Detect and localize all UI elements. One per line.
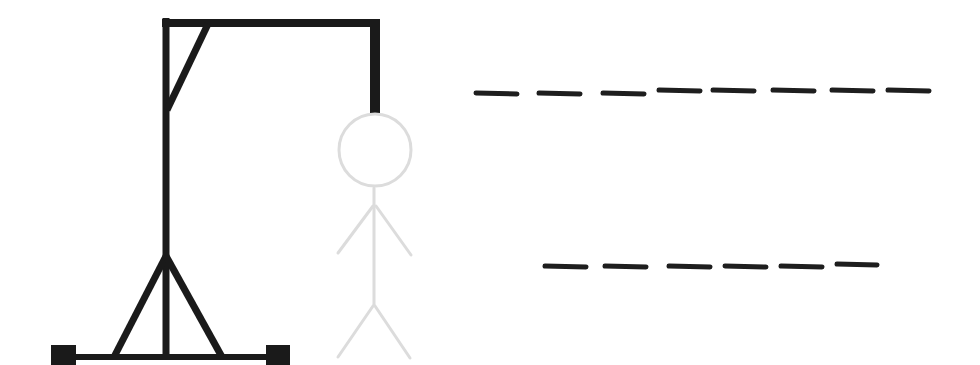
stickman-left-leg — [338, 306, 373, 357]
gallows-leg-left — [114, 256, 166, 357]
letter-blank — [781, 266, 822, 267]
stickman — [338, 114, 411, 358]
letter-blank — [539, 93, 580, 94]
stickman-head — [339, 114, 411, 186]
letter-blank — [545, 266, 586, 267]
game-canvas — [0, 0, 980, 365]
gallows-foot-left — [51, 345, 76, 365]
gallows-leg-right — [166, 256, 222, 357]
letter-blank — [476, 93, 517, 94]
stickman-right-leg — [375, 306, 410, 358]
gallows-foot-right — [266, 345, 290, 365]
gallows — [60, 18, 380, 358]
letter-blank — [725, 266, 766, 267]
stickman-right-arm — [376, 206, 411, 255]
word-2-blanks — [545, 264, 877, 267]
letter-blank — [837, 264, 877, 265]
hangman-game: Hangman — [0, 0, 980, 365]
gallows-brace — [167, 24, 208, 110]
word-1-blanks — [476, 90, 929, 94]
stickman-left-arm — [338, 206, 373, 253]
letter-blank — [605, 266, 646, 267]
letter-blank — [832, 90, 873, 91]
letter-blank — [659, 90, 700, 91]
letter-blank — [773, 90, 814, 91]
letter-blank — [603, 93, 644, 94]
letter-blank — [669, 266, 710, 267]
letter-blank — [713, 90, 754, 91]
letter-blank — [888, 90, 929, 91]
